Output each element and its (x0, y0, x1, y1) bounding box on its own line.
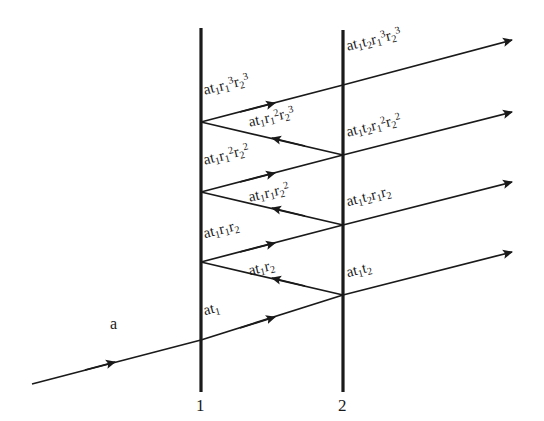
surface-1-number: 1 (196, 396, 205, 416)
beam-interference-diagram: a at1 at1r2 at1r1r2 at1r1r22 at1r12r22 a… (0, 0, 544, 421)
ray-at1r1sqr2cu-arrow (272, 138, 305, 146)
ray-at1r1r2-arrow (240, 243, 275, 252)
ray-at1r2-arrow (272, 278, 305, 286)
ray-at1r1r2sq-arrow (272, 208, 305, 216)
ray-at1-arrow (240, 317, 275, 328)
incident-ray-a-arrow (85, 362, 115, 370)
label-incident-a: a (110, 316, 117, 332)
ray-at1r1sqr2sq-arrow (240, 173, 275, 182)
incident-ray-a (32, 340, 201, 384)
surface-2-number: 2 (338, 396, 347, 416)
ray-paths-svg (0, 0, 544, 421)
